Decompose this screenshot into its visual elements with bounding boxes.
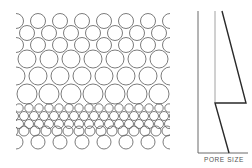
particle <box>19 126 29 136</box>
particle <box>97 38 112 53</box>
particle <box>5 104 13 112</box>
particle <box>50 112 59 121</box>
particle <box>45 104 53 112</box>
particle <box>20 26 35 41</box>
particle <box>115 104 123 112</box>
particle <box>162 126 172 136</box>
pore-size-curve <box>215 11 246 153</box>
particle <box>0 135 1 149</box>
particle <box>80 112 89 121</box>
particle <box>17 84 37 104</box>
particle <box>31 14 46 29</box>
particle <box>55 104 63 112</box>
pore-size-profile <box>198 11 248 153</box>
particle <box>174 26 189 41</box>
particle <box>10 112 19 121</box>
particle <box>85 104 93 112</box>
particle <box>163 14 178 29</box>
particle <box>118 126 128 136</box>
particle <box>110 112 119 121</box>
particle <box>175 104 183 112</box>
particle <box>185 14 200 29</box>
particle <box>155 104 163 112</box>
particle <box>9 135 23 149</box>
particle <box>100 112 109 121</box>
particle <box>61 84 81 104</box>
particle <box>9 14 24 29</box>
particle <box>150 112 159 121</box>
particle <box>35 104 43 112</box>
particle <box>51 67 69 85</box>
particle <box>70 112 79 121</box>
particle <box>15 120 24 129</box>
particle <box>135 104 143 112</box>
diagram: PORE SIZE <box>0 0 252 168</box>
particle <box>163 38 178 53</box>
particle <box>165 120 174 129</box>
particle <box>0 84 15 104</box>
particle <box>160 112 169 121</box>
particle <box>31 135 45 149</box>
particle <box>0 26 13 41</box>
particle <box>35 120 44 129</box>
particle <box>86 26 101 41</box>
particle <box>73 67 91 85</box>
particle <box>64 26 79 41</box>
particle <box>128 50 146 68</box>
particle <box>0 50 14 68</box>
particle <box>52 126 62 136</box>
particle <box>115 120 124 129</box>
particle <box>130 112 139 121</box>
particle <box>60 112 69 121</box>
particle <box>163 135 177 149</box>
particle <box>95 67 113 85</box>
particle <box>97 14 112 29</box>
particle <box>30 112 39 121</box>
particle <box>165 104 173 112</box>
particle <box>125 104 133 112</box>
particle <box>129 126 139 136</box>
particle <box>83 84 103 104</box>
particle <box>145 104 153 112</box>
particle <box>95 120 104 129</box>
particle <box>150 50 168 68</box>
packing-diagram <box>0 0 252 168</box>
particle <box>75 14 90 29</box>
particle <box>55 120 64 129</box>
particle <box>185 38 200 53</box>
pore-size-axis-label: PORE SIZE <box>198 156 250 163</box>
particle <box>74 126 84 136</box>
particle <box>75 38 90 53</box>
particle <box>185 135 199 149</box>
particle <box>0 38 2 53</box>
particle <box>85 120 94 129</box>
particle <box>65 120 74 129</box>
particle <box>63 126 73 136</box>
particle <box>95 104 103 112</box>
particle <box>7 67 25 85</box>
particle <box>8 126 18 136</box>
particle <box>39 84 59 104</box>
particle <box>117 67 135 85</box>
particle <box>140 112 149 121</box>
particle <box>18 50 36 68</box>
particle <box>75 104 83 112</box>
particle <box>105 104 113 112</box>
particle <box>173 126 183 136</box>
particle <box>119 135 133 149</box>
particle <box>62 50 80 68</box>
particle <box>149 84 169 104</box>
particle <box>170 112 179 121</box>
particle <box>85 126 95 136</box>
particle <box>106 50 124 68</box>
particle <box>130 26 145 41</box>
particle <box>31 38 46 53</box>
particle <box>161 67 179 85</box>
particle <box>0 14 2 29</box>
particle <box>141 38 156 53</box>
particle <box>20 112 29 121</box>
particle <box>145 120 154 129</box>
particle <box>75 135 89 149</box>
particle-packing <box>0 14 201 150</box>
particle <box>120 112 129 121</box>
